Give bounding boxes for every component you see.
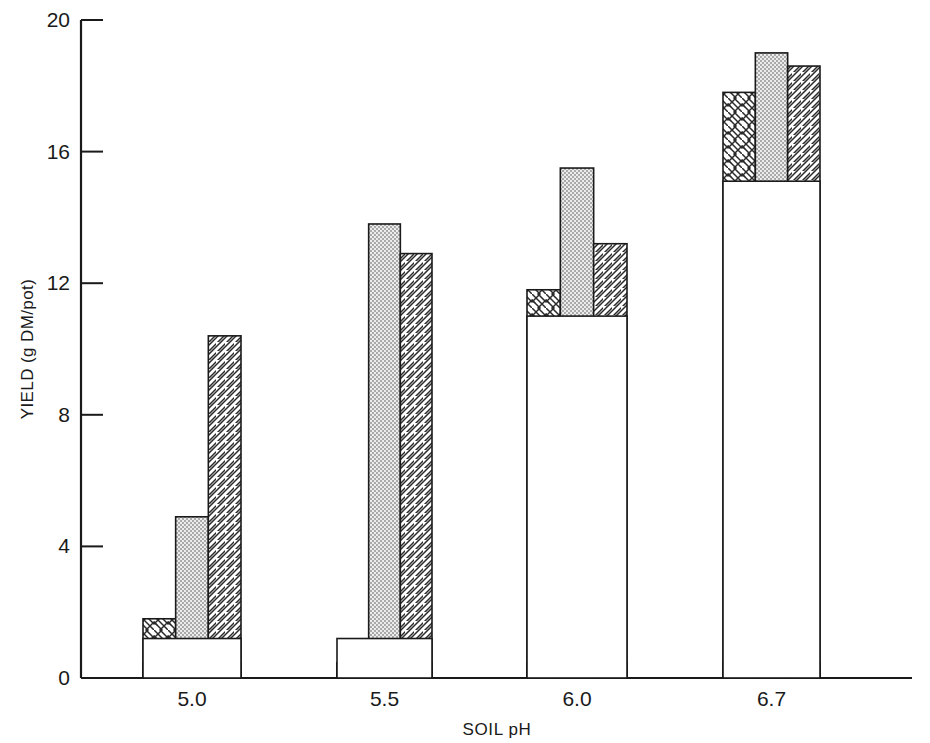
x-tick-label: 6.7 xyxy=(757,687,786,710)
y-axis-title: YIELD (g DM/pot) xyxy=(18,279,37,420)
y-tick-group: 048121620 xyxy=(47,8,103,689)
x-tick-label: 5.5 xyxy=(370,687,399,710)
y-tick-label: 20 xyxy=(47,8,70,31)
y-tick-label: 8 xyxy=(58,403,70,426)
y-tick-label: 16 xyxy=(47,140,70,163)
chart-figure: 048121620 5.05.56.06.7 YIELD (g DM/pot) … xyxy=(0,0,930,743)
bar-chart-svg: 048121620 5.05.56.06.7 YIELD (g DM/pot) … xyxy=(0,0,930,743)
bar-segment-stipple xyxy=(369,224,401,678)
bar-base xyxy=(527,316,627,678)
bar-base xyxy=(723,181,820,678)
y-tick-label: 4 xyxy=(58,534,70,557)
y-tick-label: 12 xyxy=(47,271,70,294)
x-axis-title: SOIL pH xyxy=(463,720,532,739)
x-tick-label: 5.0 xyxy=(177,687,206,710)
bar-group xyxy=(143,53,820,678)
bar-base xyxy=(143,639,241,678)
y-tick-label: 0 xyxy=(58,666,70,689)
bar-base xyxy=(337,639,432,678)
bar-segment-diagonal-hatch xyxy=(208,336,241,678)
x-tick-group: 5.05.56.06.7 xyxy=(143,662,820,710)
bar-segment-diagonal-hatch xyxy=(400,254,432,678)
x-tick-label: 6.0 xyxy=(562,687,591,710)
